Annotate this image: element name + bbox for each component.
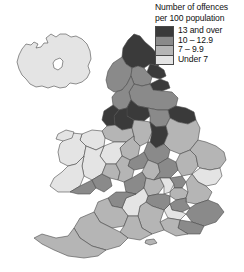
legend-title-line-1: Number of offences bbox=[155, 2, 244, 13]
choropleth-map-figure: Number of offences per 100 population 13… bbox=[0, 0, 244, 272]
region-cleveland bbox=[150, 79, 170, 91]
legend-title-line-2: per 100 population bbox=[155, 13, 244, 24]
region-oxfordshire bbox=[144, 178, 164, 196]
legend-swatch-13-and-over bbox=[155, 26, 174, 36]
legend-swatch-7-to-9-9 bbox=[155, 45, 174, 55]
legend-swatch-10-to-12-9 bbox=[155, 36, 174, 46]
map-regions bbox=[17, 34, 226, 258]
legend-entry-under-7: Under 7 bbox=[155, 55, 244, 65]
region-isle-of-wight bbox=[145, 239, 157, 245]
map-legend: Number of offences per 100 population 13… bbox=[155, 2, 244, 65]
legend-label-under-7: Under 7 bbox=[178, 55, 208, 65]
legend-entry-list: 13 and over 10 – 12.9 7 – 9.9 Under 7 bbox=[155, 26, 244, 64]
legend-swatch-under-7 bbox=[155, 55, 174, 65]
